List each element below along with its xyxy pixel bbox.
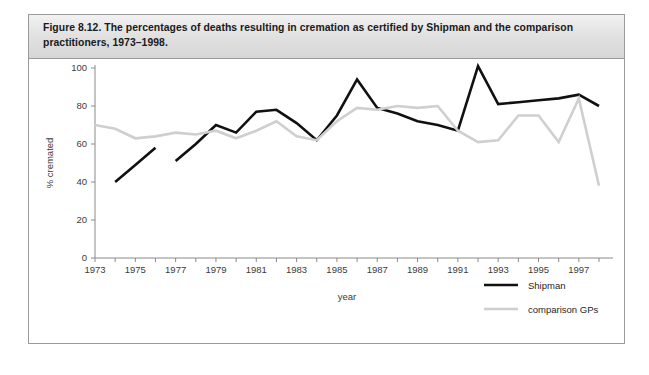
y-axis-tick-label: 40 xyxy=(76,176,87,187)
x-axis-title: year xyxy=(338,291,356,302)
series-line-comparison-gps xyxy=(95,98,599,185)
y-axis-tick-label: 0 xyxy=(82,252,87,263)
y-axis-tick-label: 20 xyxy=(76,214,87,225)
y-axis-tick-label: 100 xyxy=(71,62,87,73)
x-axis-tick-label: 1973 xyxy=(84,264,105,275)
x-axis-tick-label: 1979 xyxy=(205,264,226,275)
chart-plot-area: 0204060801001973197519771979198119831985… xyxy=(29,59,624,344)
x-axis-tick-label: 1997 xyxy=(568,264,589,275)
series-line-shipman xyxy=(115,148,155,182)
y-axis-tick-label: 80 xyxy=(76,100,87,111)
x-axis-tick-label: 1983 xyxy=(286,264,307,275)
figure-caption: Figure 8.12. The percentages of deaths r… xyxy=(29,15,624,59)
legend-label-shipman: Shipman xyxy=(528,280,566,291)
cremation-line-chart: 0204060801001973197519771979198119831985… xyxy=(29,59,624,342)
x-axis-tick-label: 1985 xyxy=(326,264,347,275)
x-axis-tick-label: 1995 xyxy=(528,264,549,275)
x-axis-tick-label: 1977 xyxy=(165,264,186,275)
y-axis-title: % cremated xyxy=(44,138,55,189)
x-axis-tick-label: 1975 xyxy=(125,264,146,275)
x-axis-tick-label: 1981 xyxy=(246,264,267,275)
x-axis-tick-label: 1987 xyxy=(367,264,388,275)
series-line-shipman xyxy=(176,66,599,161)
figure-container: Figure 8.12. The percentages of deaths r… xyxy=(28,14,625,344)
x-axis-tick-label: 1991 xyxy=(447,264,468,275)
x-axis-tick-label: 1989 xyxy=(407,264,428,275)
x-axis-tick-label: 1993 xyxy=(488,264,509,275)
legend-label-comparison-gps: comparison GPs xyxy=(528,304,598,315)
y-axis-tick-label: 60 xyxy=(76,138,87,149)
